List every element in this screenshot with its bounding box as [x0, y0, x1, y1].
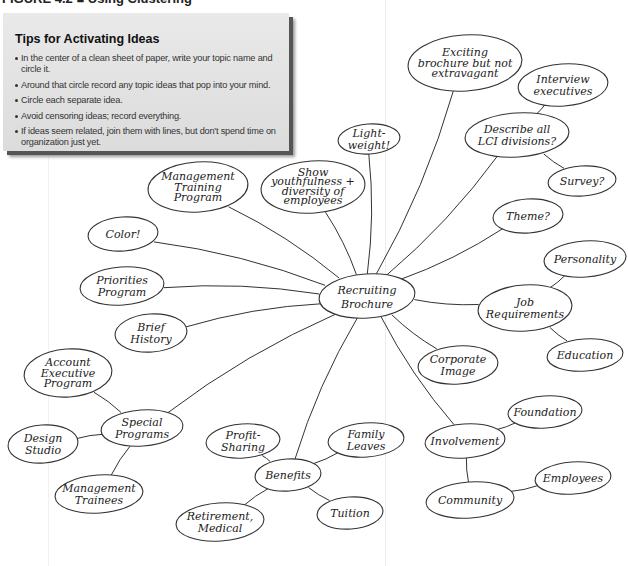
idea-node-brief: BriefHistory: [114, 312, 188, 355]
central-topic-node: RecruitingBrochure: [318, 271, 417, 322]
node-label: Survey?: [560, 175, 605, 188]
idea-node-education: Education: [546, 336, 624, 373]
node-label: Trainees: [75, 494, 124, 507]
connector-line-recruiting-special: [167, 313, 338, 413]
idea-node-priorities: PrioritiesProgram: [79, 264, 165, 308]
node-label: Education: [556, 349, 614, 362]
node-label: Design: [23, 432, 63, 445]
node-label: Describe all: [483, 123, 551, 136]
node-label: Theme?: [506, 210, 550, 223]
idea-node-involvement: Involvement: [424, 421, 506, 460]
node-label: Sharing: [221, 441, 265, 454]
connector-line-recruiting-corporate: [392, 315, 437, 349]
idea-node-mgmt_training: ManagementTrainingProgram: [146, 159, 249, 216]
node-label: Brief: [136, 321, 166, 334]
node-label: Interview: [535, 73, 590, 86]
idea-node-benefits: Benefits: [254, 457, 322, 494]
node-label: Image: [440, 365, 476, 378]
node-label: Recruiting: [337, 284, 397, 297]
node-label: Employees: [542, 472, 604, 485]
node-label: Community: [438, 494, 503, 507]
node-label: Brochure: [340, 298, 394, 311]
idea-node-show: Showyouthfulness +diversity ofemployees: [259, 157, 366, 216]
idea-node-exciting: Excitingbrochure but notextravagant: [406, 31, 524, 95]
connector-line-recruiting-mgmt_training: [229, 207, 340, 278]
connector-line-special-design: [77, 434, 104, 438]
connector-line-recruiting-lightweight: [367, 154, 371, 274]
connector-line-recruiting-theme: [400, 228, 504, 280]
node-label: Benefits: [264, 469, 311, 482]
node-label: Color!: [106, 228, 141, 241]
idea-node-account: AccountExecutiveProgram: [22, 346, 113, 400]
connector-line-involvement-community: [466, 458, 468, 482]
node-label: Programs: [114, 428, 170, 441]
idea-node-design: DesignStudio: [7, 423, 79, 466]
node-label: History: [129, 333, 172, 346]
node-label: Profit-: [225, 429, 261, 442]
node-label: Priorities: [95, 274, 148, 287]
node-label: Retirement,: [186, 510, 253, 523]
node-label: executives: [534, 85, 593, 98]
idea-node-foundation: Foundation: [507, 393, 583, 430]
node-label: Job: [514, 296, 534, 309]
idea-node-profit: Profit-Sharing: [205, 421, 281, 460]
idea-node-interview: Interviewexecutives: [517, 61, 610, 109]
node-label: Program: [43, 377, 93, 390]
connector-line-recruiting-exciting: [376, 90, 453, 274]
idea-node-community: Community: [425, 479, 515, 521]
connector-line-job-personality: [549, 275, 565, 288]
idea-node-employees: Employees: [534, 459, 612, 496]
idea-node-job: JobRequirements: [477, 282, 574, 334]
connector-line-involvement-foundation: [495, 422, 516, 430]
connector-line-benefits-retirement: [243, 488, 269, 506]
connector-line-describe-survey: [544, 154, 564, 168]
node-label: Management: [61, 482, 136, 495]
node-label: Tuition: [330, 507, 370, 520]
node-label: Foundation: [512, 406, 576, 419]
node-label: Involvement: [430, 435, 501, 448]
node-label: Special: [122, 416, 163, 429]
connector-line-recruiting-describe: [386, 156, 498, 276]
connector-line-recruiting-show: [326, 212, 357, 274]
idea-node-corporate: CorporateImage: [417, 343, 499, 386]
idea-node-describe: Describe allLCI divisions?: [464, 109, 571, 160]
connector-line-recruiting-priorities: [164, 286, 319, 294]
diagram-nodes: RecruitingBrochureExcitingbrochure but n…: [7, 31, 627, 544]
connector-line-benefits-family: [312, 452, 339, 464]
node-label: Program: [97, 286, 147, 299]
node-label: Leaves: [346, 440, 386, 453]
connector-line-job-education: [550, 328, 567, 341]
idea-node-retirement: Retirement,Medical: [175, 500, 265, 544]
connector-line-special-mgmt_trainees: [111, 445, 131, 475]
cluster-diagram: RecruitingBrochureExcitingbrochure but n…: [0, 0, 628, 566]
idea-node-personality: Personality: [543, 238, 627, 280]
node-label: Family: [346, 428, 385, 441]
node-label: Corporate: [430, 353, 487, 366]
node-label: Light-: [351, 127, 385, 140]
connector-line-recruiting-job: [414, 300, 478, 305]
idea-node-survey: Survey?: [547, 164, 617, 199]
node-label: Program: [173, 191, 223, 204]
idea-node-family: FamilyLeaves: [327, 420, 405, 459]
connector-line-benefits-tuition: [309, 488, 330, 501]
idea-node-theme: Theme?: [492, 197, 564, 236]
node-label: Medical: [197, 522, 243, 535]
connector-line-community-employees: [509, 485, 539, 492]
idea-node-special: SpecialPrograms: [100, 407, 184, 449]
connector-line-special-account: [94, 392, 121, 412]
node-label: Studio: [25, 444, 62, 457]
connector-line-benefits-profit: [262, 456, 270, 462]
idea-node-lightweight: Light-weight!: [337, 122, 401, 156]
idea-node-tuition: Tuition: [316, 495, 384, 532]
node-label: LCI divisions?: [477, 135, 556, 148]
idea-node-mgmt_trainees: ManagementTrainees: [54, 472, 144, 516]
idea-node-color: Color!: [87, 215, 159, 254]
node-label: weight!: [348, 139, 390, 152]
node-label: extravagant: [432, 67, 499, 80]
node-label: Requirements: [485, 308, 565, 321]
connector-line-recruiting-brief: [185, 304, 322, 327]
node-label: Personality: [553, 253, 617, 266]
node-label: employees: [283, 194, 342, 207]
